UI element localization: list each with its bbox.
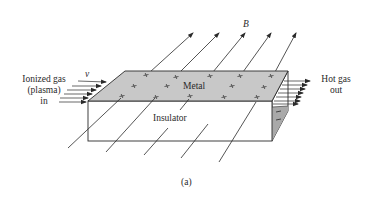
inlet-label-line3: in [14, 96, 74, 107]
figure-caption: (a) [181, 177, 192, 188]
metal-label: Metal [183, 81, 205, 92]
inlet-label-line2: (plasma) [14, 85, 74, 96]
inlet-label-line1: Ionized gas [14, 74, 74, 85]
field-arrow [275, 33, 296, 72]
outlet-label: Hot gas out [313, 74, 359, 96]
inlet-label: Ionized gas (plasma) in [14, 74, 74, 107]
field-arrow [243, 33, 271, 72]
field-arrow [180, 33, 219, 72]
velocity-label: v [85, 69, 89, 80]
field-arrow [150, 33, 193, 72]
field-arrow [213, 33, 245, 72]
outlet-label-line2: out [313, 85, 359, 96]
outlet-label-line1: Hot gas [313, 74, 359, 85]
field-label: B [243, 19, 249, 30]
magnetic-field-lines [150, 33, 296, 72]
insulator-label: Insulator [153, 113, 187, 124]
